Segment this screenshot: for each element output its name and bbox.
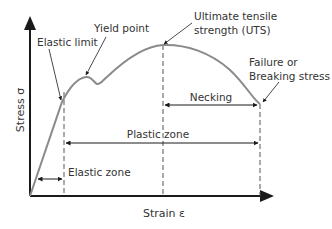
elastic-limit-label: Elastic limit (37, 36, 98, 48)
x-axis (30, 190, 274, 202)
failure-pointer (263, 82, 279, 102)
elastic-zone-label: Elastic zone (68, 166, 131, 178)
stress-strain-diagram: Stress σ Strain ε Necking Plastic zone E… (0, 0, 332, 229)
plastic-zone-label: Plastic zone (127, 128, 189, 140)
failure-label-line1: Failure or (249, 56, 298, 68)
uts-label-line2: strength (UTS) (194, 24, 271, 36)
y-axis-arrow-icon (24, 16, 36, 30)
uts-label-line1: Ultimate tensile (194, 10, 277, 22)
yield-point-label: Yield point (93, 22, 149, 34)
y-axis-label: Stress σ (14, 88, 27, 132)
uts-pointer (164, 23, 192, 44)
x-axis-arrow-icon (260, 190, 274, 202)
elastic-limit-pointer (49, 49, 61, 100)
failure-label-line2: Breaking stress (249, 70, 330, 82)
necking-label: Necking (190, 91, 232, 103)
x-axis-label: Strain ε (143, 207, 185, 220)
